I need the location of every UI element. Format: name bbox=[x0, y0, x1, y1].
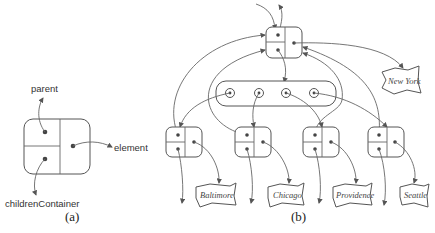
svg-text:Providence: Providence bbox=[335, 190, 375, 200]
svg-text:New York: New York bbox=[387, 76, 421, 86]
node-box bbox=[24, 119, 90, 174]
tree-diagram: parent element childrenContainer (a) New… bbox=[0, 0, 435, 233]
child-node-baltimore: Baltimore bbox=[166, 127, 236, 207]
tree-b: New York bbox=[166, 4, 429, 224]
node-structure-a: parent element childrenContainer (a) bbox=[5, 83, 148, 224]
child-node-chicago: Chicago bbox=[235, 127, 304, 207]
svg-text:Baltimore: Baltimore bbox=[200, 190, 234, 200]
element-label: element bbox=[114, 142, 148, 153]
parent-label: parent bbox=[31, 83, 58, 94]
child-node-providence: Providence bbox=[303, 127, 375, 207]
child-node-seattle: Seattle bbox=[368, 127, 429, 207]
caption-a: (a) bbox=[65, 209, 79, 224]
caption-b: (b) bbox=[291, 209, 306, 224]
children-container-label: childrenContainer bbox=[5, 198, 79, 209]
svg-text:Chicago: Chicago bbox=[273, 190, 302, 200]
svg-text:Seattle: Seattle bbox=[404, 190, 427, 200]
